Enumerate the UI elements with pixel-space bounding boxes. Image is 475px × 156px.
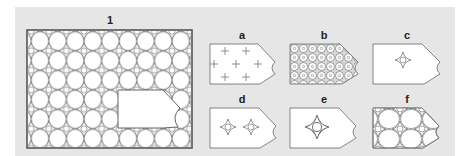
option-b[interactable] bbox=[290, 44, 358, 84]
option-a[interactable] bbox=[210, 44, 275, 84]
option-e[interactable] bbox=[290, 108, 356, 148]
figure-svg bbox=[0, 0, 475, 156]
option-d[interactable] bbox=[210, 108, 276, 148]
option-c[interactable] bbox=[373, 44, 440, 84]
option-f[interactable] bbox=[373, 108, 443, 150]
main-grid bbox=[27, 30, 192, 148]
